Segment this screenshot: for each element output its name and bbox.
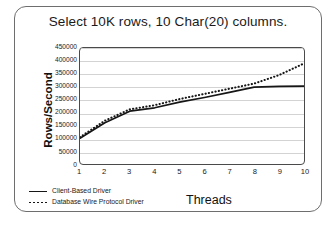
x-axis-tick: 10 [296,168,314,176]
x-axis-tick: 3 [120,168,138,176]
x-axis-tick: 8 [246,168,264,176]
series-line [80,86,304,138]
x-axis-label: Threads [186,193,232,207]
y-axis-tick: 100000 [35,135,77,142]
legend-item-label: Client-Based Driver [52,188,111,195]
x-axis-tick: 7 [221,168,239,176]
plot-area [79,47,305,165]
y-axis-tick-labels: 4500004000003500003000002500002000001500… [32,47,77,165]
y-axis-tick: 400000 [35,57,77,64]
legend-dotted-line-icon [28,198,48,206]
y-axis-tick: 250000 [35,96,77,103]
y-axis-tick: 200000 [35,109,77,116]
y-axis-tick: 300000 [35,83,77,90]
x-axis-tick: 6 [196,168,214,176]
y-axis-tick: 150000 [35,122,77,129]
x-axis-tick: 4 [145,168,163,176]
y-axis-tick: 350000 [35,70,77,77]
x-axis-tick: 2 [95,168,113,176]
chart-screenshot: Select 10K rows, 10 Char(20) columns. Ro… [0,0,336,226]
chart-legend: Client-Based DriverDatabase Wire Protoco… [28,186,178,208]
x-axis-tick: 5 [170,168,188,176]
legend-item-label: Database Wire Protocol Driver [52,199,144,206]
y-axis-tick: 50000 [35,149,77,156]
legend-item: Database Wire Protocol Driver [28,197,178,207]
x-axis-tick: 1 [70,168,88,176]
x-axis-tick: 9 [271,168,289,176]
chart-title: Select 10K rows, 10 Char(20) columns. [28,14,308,29]
x-axis-tick-labels: 12345678910 [79,168,305,180]
y-axis-tick: 450000 [35,44,77,51]
legend-solid-line-icon [28,187,48,195]
series-lines [80,48,304,164]
legend-item: Client-Based Driver [28,186,178,196]
